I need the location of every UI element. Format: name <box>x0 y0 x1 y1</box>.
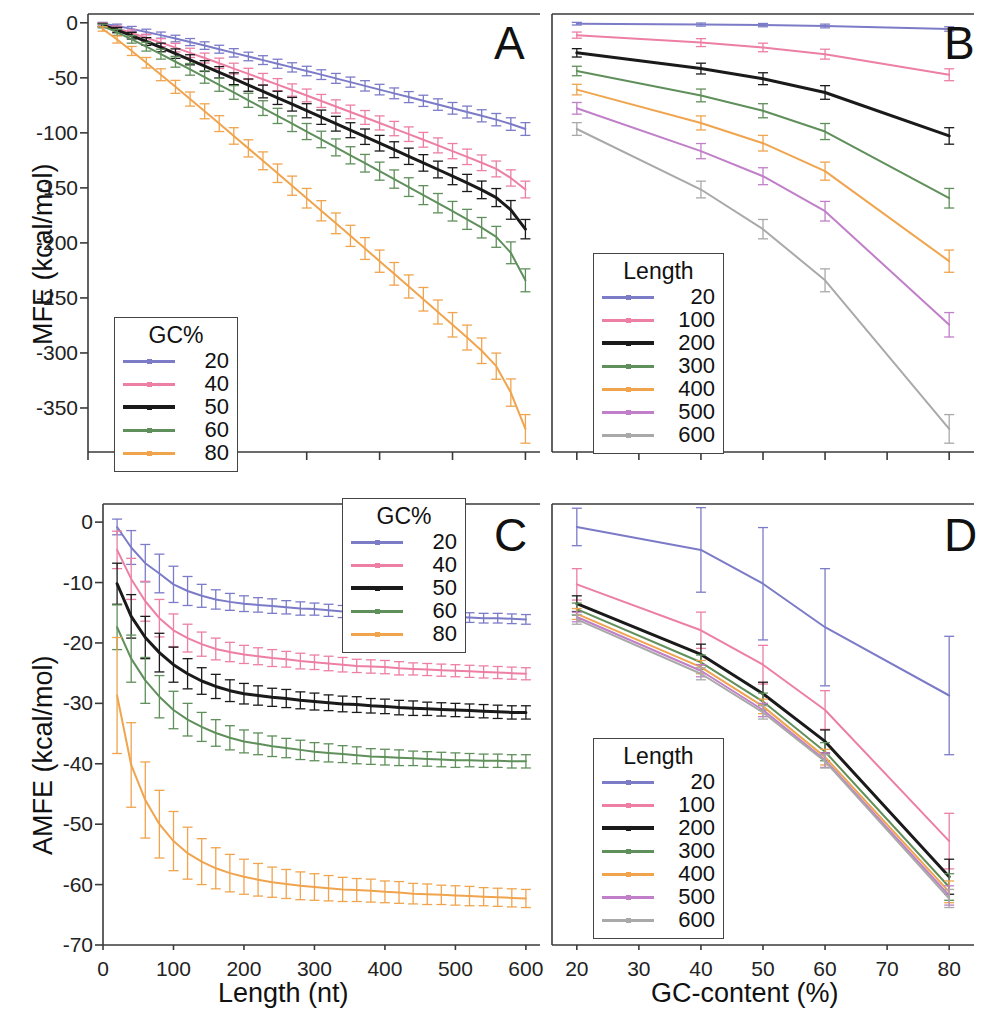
y-tick-label-amfe: 0 <box>41 510 93 534</box>
legend-item[interactable]: 100 <box>602 309 715 332</box>
legend-item-label: 80 <box>175 442 229 464</box>
legend-item[interactable]: 80 <box>351 623 457 646</box>
y-tick-label-mfe: -350 <box>24 396 78 420</box>
legend-item[interactable]: 60 <box>351 600 457 623</box>
legend-color-swatch <box>351 627 403 641</box>
legend-rows: 2040506080 <box>351 531 457 646</box>
error-bars <box>112 531 531 680</box>
y-tick-label-amfe: -10 <box>41 571 93 595</box>
y-tick-label-amfe: -60 <box>41 873 93 897</box>
y-tick-label-mfe: -300 <box>24 341 78 365</box>
legend-item[interactable]: 40 <box>123 373 229 396</box>
panel-b-legend: Length 20100200300400500600 <box>593 253 724 454</box>
error-bars <box>112 519 531 624</box>
legend-item-label: 20 <box>175 350 229 372</box>
legend-rows: 2040506080 <box>123 350 229 465</box>
legend-color-swatch <box>602 867 654 881</box>
legend-item-label: 20 <box>654 286 715 308</box>
legend-item-label: 80 <box>403 623 457 645</box>
legend-item[interactable]: 300 <box>602 355 715 378</box>
y-tick-label-mfe: -100 <box>24 121 78 145</box>
legend-item[interactable]: 200 <box>602 817 715 840</box>
legend-item[interactable]: 20 <box>123 350 229 373</box>
legend-item[interactable]: 50 <box>351 577 457 600</box>
legend-color-swatch <box>602 798 654 812</box>
legend-item[interactable]: 40 <box>351 554 457 577</box>
legend-color-swatch <box>602 890 654 904</box>
legend-item-label: 40 <box>403 554 457 576</box>
legend-item[interactable]: 20 <box>351 531 457 554</box>
legend-color-swatch <box>602 844 654 858</box>
legend-color-swatch <box>351 604 403 618</box>
y-tick-label-mfe: 0 <box>24 11 78 35</box>
legend-color-swatch <box>123 377 175 391</box>
legend-item[interactable]: 60 <box>123 419 229 442</box>
legend-item-label: 50 <box>403 577 457 599</box>
legend-item[interactable]: 500 <box>602 401 715 424</box>
legend-color-swatch <box>602 290 654 304</box>
x-tick-label-gc: 80 <box>919 957 979 981</box>
legend-item[interactable]: 100 <box>602 794 715 817</box>
panel-d-legend: Length 20100200300400500600 <box>593 738 724 939</box>
y-tick-label-amfe: -70 <box>41 933 93 957</box>
legend-item-label: 40 <box>175 373 229 395</box>
legend-item-label: 400 <box>654 863 715 885</box>
legend-item[interactable]: 600 <box>602 909 715 932</box>
legend-item-label: 20 <box>654 771 715 793</box>
error-bars <box>112 605 531 768</box>
legend-color-swatch <box>602 821 654 835</box>
legend-color-swatch <box>602 913 654 927</box>
x-tick-label-gc: 70 <box>857 957 917 981</box>
legend-item-label: 200 <box>654 332 715 354</box>
panel-c-letter: C <box>494 512 527 558</box>
y-tick-label-amfe: -20 <box>41 631 93 655</box>
legend-color-swatch <box>602 336 654 350</box>
legend-color-swatch <box>602 775 654 789</box>
legend-item[interactable]: 20 <box>602 286 715 309</box>
x-tick-label-length: 0 <box>73 957 133 981</box>
panel-a-legend: GC% 2040506080 <box>114 317 238 472</box>
data-line <box>103 26 526 280</box>
legend-item-label: 50 <box>175 396 229 418</box>
legend-item[interactable]: 300 <box>602 840 715 863</box>
y-tick-label-mfe: -250 <box>24 286 78 310</box>
legend-item-label: 300 <box>654 840 715 862</box>
legend-item[interactable]: 400 <box>602 378 715 401</box>
legend-item[interactable]: 500 <box>602 886 715 909</box>
panel-a: A GC% 2040506080 <box>0 0 546 490</box>
x-tick-label-gc: 20 <box>547 957 607 981</box>
legend-item[interactable]: 400 <box>602 863 715 886</box>
panel-c-legend: GC% 2040506080 <box>342 498 466 653</box>
x-tick-label-length: 400 <box>355 957 415 981</box>
legend-item-label: 200 <box>654 817 715 839</box>
panel-b-letter: B <box>944 20 975 66</box>
legend-item-label: 300 <box>654 355 715 377</box>
legend-title: Length <box>602 259 715 284</box>
legend-item[interactable]: 200 <box>602 332 715 355</box>
legend-item[interactable]: 80 <box>123 442 229 465</box>
legend-item[interactable]: 600 <box>602 424 715 447</box>
figure-root: A GC% 2040506080 MFE (kcal/mol) B Length… <box>0 0 989 1014</box>
legend-color-swatch <box>351 558 403 572</box>
legend-color-swatch <box>602 382 654 396</box>
legend-color-swatch <box>602 359 654 373</box>
y-tick-label-mfe: -200 <box>24 231 78 255</box>
legend-item-label: 600 <box>654 909 715 931</box>
legend-item[interactable]: 50 <box>123 396 229 419</box>
legend-item-label: 500 <box>654 401 715 423</box>
panel-d-letter: D <box>944 512 977 558</box>
legend-rows: 20100200300400500600 <box>602 286 715 447</box>
legend-color-swatch <box>602 405 654 419</box>
legend-item-label: 100 <box>654 794 715 816</box>
legend-color-swatch <box>351 535 403 549</box>
data-line <box>577 35 949 75</box>
legend-color-swatch <box>602 428 654 442</box>
legend-item-label: 20 <box>403 531 457 553</box>
legend-color-swatch <box>123 400 175 414</box>
error-bars <box>98 22 531 135</box>
legend-item[interactable]: 20 <box>602 771 715 794</box>
gc-content-axis-title: GC-content (%) <box>651 978 839 1009</box>
data-line <box>117 696 526 899</box>
y-tick-label-amfe: -50 <box>41 812 93 836</box>
panel-a-letter: A <box>494 20 525 66</box>
